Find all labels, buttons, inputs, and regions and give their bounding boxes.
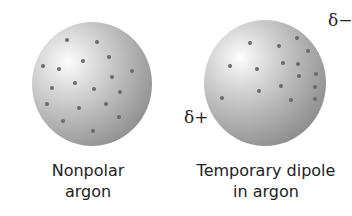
- electron-dot: [92, 87, 96, 91]
- electron-dot: [45, 102, 49, 106]
- electron-dot: [110, 75, 114, 79]
- delta-minus-label: δ−: [328, 10, 352, 30]
- electron-dot: [107, 55, 111, 59]
- electron-dot: [257, 89, 261, 93]
- electron-dot: [255, 67, 259, 71]
- electron-dot: [279, 84, 283, 88]
- nonpolar-argon-sphere: [32, 22, 152, 146]
- caption-line: argon: [18, 181, 158, 202]
- electron-dot: [41, 64, 45, 68]
- electron-dot: [130, 69, 134, 73]
- electron-dot: [61, 119, 65, 123]
- electron-dot: [281, 61, 285, 65]
- electron-dot: [295, 36, 299, 40]
- electron-dot: [117, 115, 121, 119]
- electron-dot: [297, 74, 301, 78]
- electron-dot: [289, 98, 293, 102]
- electron-dot: [95, 40, 99, 44]
- dipole-argon-sphere: [204, 20, 326, 146]
- electron-dot: [77, 106, 81, 110]
- dipole-argon-caption: Temporary dipole in argon: [180, 160, 352, 202]
- delta-plus-label: δ+: [184, 107, 208, 127]
- electron-dot: [81, 59, 85, 63]
- electron-dot: [104, 102, 108, 106]
- electron-dot: [277, 44, 281, 48]
- electron-dot: [306, 49, 310, 53]
- electron-dot: [314, 72, 318, 76]
- electron-dot: [91, 129, 95, 133]
- electron-dot: [228, 64, 232, 68]
- electron-dot: [118, 90, 122, 94]
- nonpolar-argon-caption: Nonpolar argon: [18, 160, 158, 202]
- electron-dot: [65, 38, 69, 42]
- caption-line: in argon: [180, 181, 352, 202]
- electron-dot: [73, 81, 77, 85]
- caption-line: Nonpolar: [18, 160, 158, 181]
- electron-dot: [296, 62, 300, 66]
- electron-dot: [313, 85, 317, 89]
- electron-dot: [248, 41, 252, 45]
- electron-dot: [220, 96, 224, 100]
- electron-dot: [313, 97, 317, 101]
- electron-dot: [57, 67, 61, 71]
- caption-line: Temporary dipole: [180, 160, 352, 181]
- electron-dot: [50, 86, 54, 90]
